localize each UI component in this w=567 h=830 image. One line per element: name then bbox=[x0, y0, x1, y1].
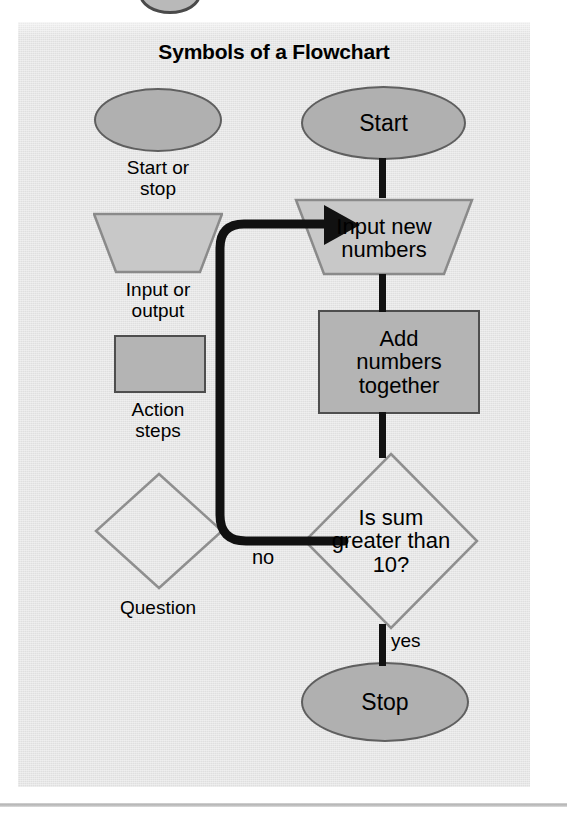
flow-node-stop[interactable]: Stop bbox=[301, 662, 469, 742]
flow-node-add-line2: numbers bbox=[356, 350, 442, 373]
legend-shape-io bbox=[93, 212, 223, 274]
cropped-circle-artifact bbox=[139, 0, 201, 14]
flow-node-decision[interactable]: Is sum greater than 10? bbox=[303, 452, 479, 630]
legend-shape-terminator bbox=[94, 88, 222, 152]
panel-top-highlight bbox=[18, 22, 530, 36]
flow-node-start-label: Start bbox=[359, 111, 408, 135]
bottom-divider-rule bbox=[0, 803, 567, 807]
flow-node-add-label: Add numbers together bbox=[356, 327, 442, 397]
legend-caption-process: Action steps bbox=[68, 400, 248, 442]
flow-node-add[interactable]: Add numbers together bbox=[318, 310, 480, 414]
legend-caption-io-line1: Input or bbox=[68, 280, 248, 301]
flow-node-add-line1: Add bbox=[356, 327, 442, 350]
legend-caption-terminator-line1: Start or bbox=[68, 158, 248, 179]
flow-node-input[interactable]: Input new numbers bbox=[294, 198, 474, 276]
legend-caption-process-line2: steps bbox=[68, 421, 248, 442]
flow-input-svg bbox=[294, 198, 474, 276]
flow-node-add-line3: together bbox=[356, 374, 442, 397]
connector-start-to-input bbox=[379, 158, 386, 198]
flow-node-start[interactable]: Start bbox=[301, 86, 466, 160]
figure-panel: Symbols of a Flowchart Start or stop Inp… bbox=[18, 22, 530, 787]
legend-caption-terminator: Start or stop bbox=[68, 158, 248, 200]
flow-decision-svg bbox=[303, 452, 479, 630]
edge-label-yes: yes bbox=[391, 630, 421, 652]
edge-label-no: no bbox=[252, 546, 274, 569]
connector-decision-to-stop bbox=[379, 624, 386, 666]
legend-caption-decision-line1: Question bbox=[58, 598, 258, 619]
legend-caption-process-line1: Action bbox=[68, 400, 248, 421]
figure-title: Symbols of a Flowchart bbox=[18, 40, 530, 64]
legend-io-svg bbox=[93, 212, 223, 274]
legend-caption-io-line2: output bbox=[68, 301, 248, 322]
legend-caption-io: Input or output bbox=[68, 280, 248, 322]
page-root: Symbols of a Flowchart Start or stop Inp… bbox=[0, 0, 567, 830]
legend-decision-svg bbox=[94, 472, 224, 590]
legend-shape-process bbox=[114, 335, 206, 393]
flow-node-stop-label: Stop bbox=[361, 690, 408, 714]
connector-add-to-decision bbox=[379, 412, 386, 458]
legend-caption-terminator-line2: stop bbox=[68, 179, 248, 200]
legend-shape-decision bbox=[94, 472, 224, 590]
legend-caption-decision: Question bbox=[58, 598, 258, 619]
connector-input-to-add bbox=[379, 274, 386, 312]
